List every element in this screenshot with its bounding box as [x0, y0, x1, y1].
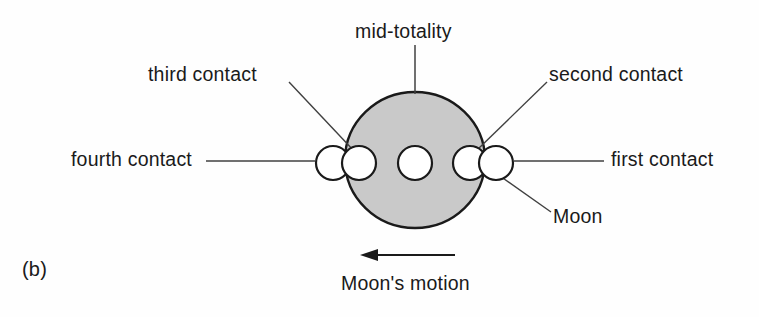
- moon-leader-line: [500, 176, 551, 212]
- label-moon: Moon: [553, 205, 603, 228]
- third-contact-leader-line: [289, 82, 355, 152]
- label-moons-motion: Moon's motion: [341, 272, 470, 295]
- label-fourth-contact: fourth contact: [71, 148, 192, 171]
- first-contact-moon-circle: [479, 146, 513, 180]
- second-contact-leader-line: [477, 82, 547, 150]
- label-mid-totality: mid-totality: [355, 20, 452, 43]
- label-second-contact: second contact: [549, 63, 683, 86]
- mid-totality-moon-circle: [398, 146, 432, 180]
- panel-label-b: (b): [22, 258, 47, 281]
- eclipse-contacts-figure: mid-totality third contact second contac…: [0, 0, 759, 317]
- third-contact-moon-circle: [342, 146, 376, 180]
- label-first-contact: first contact: [611, 148, 713, 171]
- label-third-contact: third contact: [148, 63, 257, 86]
- moons-motion-arrow: [360, 249, 455, 261]
